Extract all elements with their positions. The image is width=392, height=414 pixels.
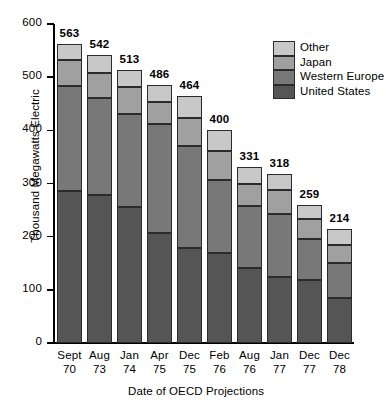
bar-segment[interactable] bbox=[237, 268, 262, 343]
bar-segment[interactable] bbox=[117, 87, 142, 114]
bar[interactable] bbox=[237, 167, 262, 343]
bar-total-label: 542 bbox=[78, 38, 122, 50]
bar[interactable] bbox=[177, 96, 202, 343]
bar-total-label: 318 bbox=[258, 157, 302, 169]
legend-label: Other bbox=[300, 41, 329, 53]
legend-swatch bbox=[273, 85, 295, 100]
bar-segment[interactable] bbox=[327, 298, 352, 343]
bar-segment[interactable] bbox=[87, 195, 112, 343]
bar[interactable] bbox=[87, 55, 112, 343]
legend-label: United States bbox=[300, 85, 370, 97]
bar-segment[interactable] bbox=[207, 253, 232, 343]
bar-segment[interactable] bbox=[147, 124, 172, 233]
x-axis-tick-label: Dec78 bbox=[318, 348, 362, 376]
legend-swatch bbox=[273, 56, 295, 71]
bar-segment[interactable] bbox=[177, 146, 202, 249]
bar-segment[interactable] bbox=[117, 207, 142, 343]
legend-swatch bbox=[273, 41, 295, 56]
bar[interactable] bbox=[57, 44, 82, 343]
bar[interactable] bbox=[327, 229, 352, 343]
bar-segment[interactable] bbox=[237, 184, 262, 207]
y-axis-tick-label: 0 bbox=[0, 335, 42, 347]
bar-segment[interactable] bbox=[57, 60, 82, 86]
bar-segment[interactable] bbox=[207, 180, 232, 253]
bar-total-label: 214 bbox=[318, 212, 362, 224]
bar-total-label: 513 bbox=[108, 53, 152, 65]
bar-total-label: 486 bbox=[138, 68, 182, 80]
bar-segment[interactable] bbox=[87, 73, 112, 98]
bar[interactable] bbox=[147, 85, 172, 343]
stacked-bar-chart: Thousand Megawatts Electric 010020030040… bbox=[0, 0, 392, 414]
bar-segment[interactable] bbox=[57, 191, 82, 343]
x-axis-title: Date of OECD Projections bbox=[0, 385, 392, 397]
bar-segment[interactable] bbox=[327, 245, 352, 263]
x-axis-tick-label-line: Dec bbox=[318, 348, 362, 362]
bar-segment[interactable] bbox=[207, 130, 232, 150]
legend-label: Western Europe bbox=[300, 70, 384, 82]
bar-segment[interactable] bbox=[237, 167, 262, 183]
bar-segment[interactable] bbox=[237, 206, 262, 268]
bar-segment[interactable] bbox=[147, 233, 172, 343]
bar-segment[interactable] bbox=[297, 239, 322, 280]
bar-segment[interactable] bbox=[177, 248, 202, 343]
y-axis-tick-label: 200 bbox=[0, 229, 42, 241]
bar-segment[interactable] bbox=[327, 229, 352, 245]
bar-segment[interactable] bbox=[87, 98, 112, 195]
bar-segment[interactable] bbox=[117, 114, 142, 207]
bar-segment[interactable] bbox=[327, 263, 352, 298]
bar[interactable] bbox=[297, 205, 322, 343]
bar[interactable] bbox=[207, 130, 232, 343]
bar-segment[interactable] bbox=[57, 86, 82, 191]
y-axis-tick-label: 500 bbox=[0, 69, 42, 81]
bar-total-label: 259 bbox=[288, 188, 332, 200]
bar-segment[interactable] bbox=[267, 214, 292, 277]
y-axis-tick-label: 400 bbox=[0, 122, 42, 134]
legend-label: Japan bbox=[300, 56, 332, 68]
legend-swatch bbox=[273, 70, 295, 85]
bar-total-label: 400 bbox=[198, 113, 242, 125]
y-axis-tick-label: 300 bbox=[0, 176, 42, 188]
bar-segment[interactable] bbox=[147, 102, 172, 124]
x-axis-tick-label-line: 78 bbox=[318, 362, 362, 376]
bar[interactable] bbox=[117, 70, 142, 343]
y-axis-tick-label: 600 bbox=[0, 16, 42, 28]
bar-total-label: 464 bbox=[168, 79, 212, 91]
bar-segment[interactable] bbox=[297, 280, 322, 343]
y-axis-tick-label: 100 bbox=[0, 282, 42, 294]
bar-segment[interactable] bbox=[267, 277, 292, 343]
